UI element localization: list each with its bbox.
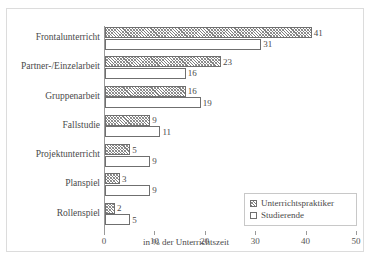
bar-student-3[interactable]: 19 bbox=[105, 97, 201, 108]
bar-practitioner-7[interactable]: 2 bbox=[105, 203, 115, 214]
bar-practitioner-2[interactable]: 23 bbox=[105, 56, 221, 67]
bar-row: Gruppenarbeit1619 bbox=[104, 85, 356, 114]
bar-value-label: 3 bbox=[122, 174, 127, 184]
x-tick-40 bbox=[306, 231, 307, 235]
legend-item-practitioner[interactable]: Unterrichtspraktiker bbox=[250, 197, 352, 209]
cut-off-text-sliver bbox=[10, 0, 360, 6]
legend-item-students[interactable]: Studierende bbox=[250, 209, 352, 221]
bar-row: Partner-/Einzelarbeit2316 bbox=[104, 55, 356, 84]
x-tick-30 bbox=[255, 231, 256, 235]
bar-value-label: 23 bbox=[223, 57, 232, 67]
category-label-6: Planspiel bbox=[8, 178, 100, 188]
bar-value-label: 16 bbox=[188, 68, 197, 78]
x-tick-20 bbox=[205, 231, 206, 235]
white-square-icon bbox=[250, 212, 257, 219]
category-label-7: Rollenspiel bbox=[8, 208, 100, 218]
bar-practitioner-3[interactable]: 16 bbox=[105, 86, 186, 97]
category-label-3: Gruppenarbeit bbox=[8, 91, 100, 101]
chart-legend: Unterrichtspraktiker Studierende bbox=[244, 193, 357, 226]
bar-value-label: 9 bbox=[152, 185, 157, 195]
bar-value-label: 9 bbox=[152, 156, 157, 166]
category-label-2: Partner-/Einzelarbeit bbox=[8, 61, 100, 71]
bar-student-2[interactable]: 16 bbox=[105, 68, 186, 79]
bar-value-label: 41 bbox=[314, 28, 323, 38]
bar-value-label: 11 bbox=[162, 127, 171, 137]
x-tick-50 bbox=[356, 231, 357, 235]
bar-value-label: 2 bbox=[117, 203, 122, 213]
bar-student-1[interactable]: 31 bbox=[105, 39, 261, 50]
bar-value-label: 16 bbox=[188, 86, 197, 96]
legend-label-practitioner: Unterrichtspraktiker bbox=[261, 198, 334, 208]
x-tick-10 bbox=[154, 231, 155, 235]
bar-practitioner-5[interactable]: 5 bbox=[105, 144, 130, 155]
bar-student-6[interactable]: 9 bbox=[105, 185, 150, 196]
hatched-square-icon bbox=[250, 200, 257, 207]
legend-label-students: Studierende bbox=[261, 210, 304, 220]
bar-value-label: 5 bbox=[132, 215, 137, 225]
category-label-5: Projektunterricht bbox=[8, 149, 100, 159]
bar-value-label: 5 bbox=[132, 145, 137, 155]
bar-practitioner-4[interactable]: 9 bbox=[105, 115, 150, 126]
x-axis-title: in % der Unterrichtszeit bbox=[7, 237, 365, 247]
chart-frame: Frontalunterricht4131Partner-/Einzelarbe… bbox=[6, 8, 364, 252]
bar-practitioner-1[interactable]: 41 bbox=[105, 27, 312, 38]
bar-practitioner-6[interactable]: 3 bbox=[105, 173, 120, 184]
x-tick-0 bbox=[104, 231, 105, 235]
bar-value-label: 9 bbox=[152, 115, 157, 125]
bar-value-label: 31 bbox=[263, 39, 272, 49]
category-label-1: Frontalunterricht bbox=[8, 32, 100, 42]
bar-student-5[interactable]: 9 bbox=[105, 156, 150, 167]
bar-row: Fallstudie911 bbox=[104, 114, 356, 143]
chart-figure: Frontalunterricht4131Partner-/Einzelarbe… bbox=[0, 0, 371, 259]
category-label-4: Fallstudie bbox=[8, 120, 100, 130]
bar-row: Frontalunterricht4131 bbox=[104, 26, 356, 55]
bar-student-4[interactable]: 11 bbox=[105, 126, 160, 137]
bar-row: Projektunterricht59 bbox=[104, 143, 356, 172]
bar-value-label: 19 bbox=[203, 98, 212, 108]
bar-student-7[interactable]: 5 bbox=[105, 214, 130, 225]
